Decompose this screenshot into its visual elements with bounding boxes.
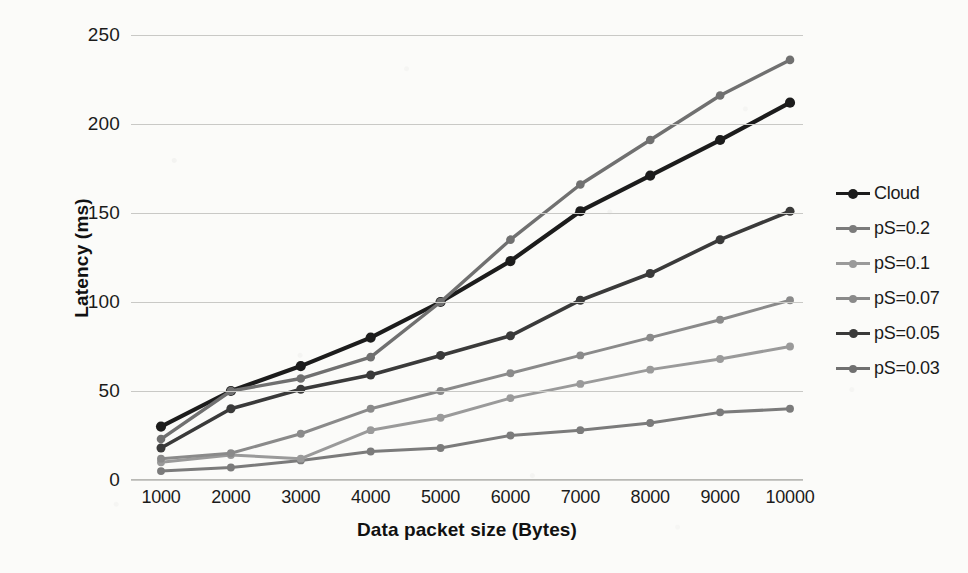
data-point-marker [716, 316, 724, 324]
data-point-marker [645, 171, 655, 181]
data-point-marker [156, 443, 165, 452]
data-point-marker [156, 422, 166, 432]
legend-item-ps-0-1[interactable]: pS=0.1 [836, 246, 966, 281]
x-tick-label: 10000 [745, 487, 835, 508]
legend-swatch-icon [836, 222, 870, 236]
y-tick-label: 0 [60, 469, 120, 491]
series-ps-0-07 [157, 296, 794, 462]
data-point-marker [297, 455, 305, 463]
series-ps-0-2 [157, 405, 794, 475]
gridline [131, 302, 803, 303]
data-point-marker [297, 430, 305, 438]
data-point-marker [646, 366, 654, 374]
gridline [131, 124, 803, 125]
legend-item-label: pS=0.07 [874, 288, 939, 309]
data-point-marker [576, 380, 584, 388]
legend-item-ps-0-07[interactable]: pS=0.07 [836, 281, 966, 316]
data-point-marker [506, 432, 514, 440]
data-point-marker [505, 256, 515, 266]
data-point-marker [227, 464, 235, 472]
legend-item-label: pS=0.2 [874, 218, 930, 239]
y-tick-label: 100 [60, 291, 120, 313]
data-point-marker [366, 353, 375, 362]
data-point-marker [785, 207, 794, 216]
legend-item-ps-0-05[interactable]: pS=0.05 [836, 316, 966, 351]
data-point-marker [786, 343, 794, 351]
latency-vs-packet-size-line-chart: Latency (ms) 050100150200250 10002000300… [0, 0, 968, 573]
data-series-layer [131, 35, 803, 480]
data-point-marker [436, 351, 445, 360]
data-point-marker [716, 408, 724, 416]
data-point-marker [437, 444, 445, 452]
x-axis-line [131, 479, 803, 480]
legend-item-label: pS=0.05 [874, 323, 939, 344]
data-point-marker [296, 385, 305, 394]
y-tick-label: 200 [60, 113, 120, 135]
series-line [161, 347, 790, 463]
data-point-marker [716, 91, 725, 100]
legend-item-ps-0-2[interactable]: pS=0.2 [836, 211, 966, 246]
legend-swatch-icon [836, 362, 870, 376]
data-point-marker [367, 448, 375, 456]
data-point-marker [506, 235, 515, 244]
data-point-marker [157, 435, 166, 444]
data-point-marker [226, 404, 235, 413]
data-point-marker [296, 361, 306, 371]
data-point-marker [786, 56, 795, 65]
data-point-marker [506, 331, 515, 340]
legend-swatch-icon [836, 257, 870, 271]
series-line [161, 103, 790, 427]
data-point-marker [646, 419, 654, 427]
series-line [161, 409, 790, 471]
legend-swatch-icon [836, 327, 870, 341]
y-axis-tick-labels: 050100150200250 [50, 35, 120, 480]
data-point-marker [576, 426, 584, 434]
data-point-marker [716, 355, 724, 363]
plot-area [131, 35, 803, 480]
data-point-marker [785, 98, 795, 108]
data-point-marker [296, 374, 305, 383]
data-point-marker [366, 333, 376, 343]
legend-swatch-icon [836, 292, 870, 306]
gridline [131, 213, 803, 214]
data-point-marker [575, 206, 585, 216]
gridline [131, 35, 803, 36]
series-line [161, 300, 790, 458]
gridline [131, 391, 803, 392]
data-point-marker [366, 370, 375, 379]
legend-item-ps-0-03[interactable]: pS=0.03 [836, 351, 966, 386]
legend-item-cloud[interactable]: Cloud [836, 176, 966, 211]
data-point-marker [367, 405, 375, 413]
y-tick-label: 250 [60, 24, 120, 46]
legend-item-label: pS=0.03 [874, 358, 939, 379]
data-point-marker [716, 235, 725, 244]
data-point-marker [367, 426, 375, 434]
x-axis-tick-labels: 1000200030004000500060007000800090001000… [131, 487, 803, 513]
y-tick-label: 50 [60, 380, 120, 402]
data-point-marker [157, 467, 165, 475]
gridline [131, 480, 803, 481]
x-axis-title: Data packet size (Bytes) [131, 519, 803, 541]
data-point-marker [646, 136, 655, 145]
data-point-marker [576, 296, 585, 305]
chart-legend: CloudpS=0.2pS=0.1pS=0.07pS=0.05pS=0.03 [836, 176, 966, 386]
legend-item-label: Cloud [874, 183, 920, 204]
legend-item-label: pS=0.1 [874, 253, 930, 274]
data-point-marker [576, 351, 584, 359]
series-line [161, 211, 790, 448]
data-point-marker [646, 269, 655, 278]
legend-swatch-icon [836, 187, 870, 201]
y-tick-label: 150 [60, 202, 120, 224]
data-point-marker [506, 394, 514, 402]
data-point-marker [437, 414, 445, 422]
data-point-marker [227, 449, 235, 457]
data-point-marker [646, 334, 654, 342]
data-point-marker [506, 369, 514, 377]
data-point-marker [576, 180, 585, 189]
data-point-marker [157, 455, 165, 463]
data-point-marker [715, 135, 725, 145]
data-point-marker [786, 405, 794, 413]
